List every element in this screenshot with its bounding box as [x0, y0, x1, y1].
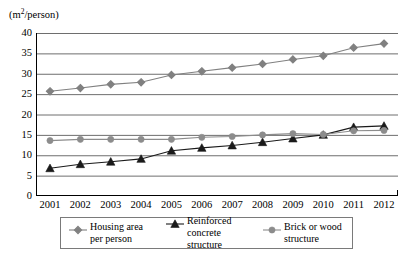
- y-tick-label: 30: [2, 69, 32, 80]
- y-axis-tick-labels: 4035302520151050: [0, 33, 32, 196]
- circle-marker-icon: [381, 127, 387, 133]
- diamond-marker-icon: [320, 52, 327, 59]
- legend-item: Housing area per person: [61, 221, 158, 245]
- circle-marker-icon: [108, 136, 114, 142]
- circle-marker-icon: [263, 222, 281, 234]
- circle-marker-icon: [320, 131, 326, 137]
- diamond-marker-icon: [229, 64, 236, 71]
- series-line: [50, 126, 384, 168]
- line-chart: (m2/person) 4035302520151050 20012002200…: [0, 0, 414, 266]
- y-tick-label: 10: [2, 150, 32, 161]
- circle-marker-icon: [77, 136, 83, 142]
- series-2: [46, 122, 388, 172]
- legend-item: Brick or wood structure: [255, 221, 352, 245]
- circle-marker-icon: [138, 136, 144, 142]
- y-tick-label: 0: [2, 191, 32, 202]
- diamond-marker-icon: [46, 88, 53, 95]
- diamond-marker-icon: [137, 79, 144, 86]
- diamond-marker-icon: [350, 44, 357, 51]
- y-tick-label: 15: [2, 130, 32, 141]
- y-axis-unit-label: (m2/person): [9, 9, 59, 21]
- y-tick-label: 35: [2, 48, 32, 59]
- diamond-marker-icon: [69, 222, 87, 234]
- circle-marker-icon: [47, 137, 53, 143]
- legend-items: Housing area per personReinforced concre…: [61, 218, 352, 248]
- diamond-marker-icon: [74, 226, 81, 233]
- circle-marker-icon: [229, 133, 235, 139]
- series-1: [46, 40, 387, 95]
- x-axis-tick-labels: 2001200220032004200520062007200820092010…: [36, 199, 398, 215]
- legend-label: Brick or wood structure: [284, 221, 342, 245]
- legend-label: Reinforced concrete structure: [187, 215, 255, 251]
- circle-marker-icon: [168, 136, 174, 142]
- diamond-marker-icon: [168, 71, 175, 78]
- diamond-marker-icon: [77, 84, 84, 91]
- legend-item: Reinforced concrete structure: [158, 215, 255, 251]
- plot-svg: [36, 33, 398, 196]
- diamond-marker-icon: [259, 60, 266, 67]
- y-tick-label: 5: [2, 171, 32, 182]
- y-tick-label: 20: [2, 110, 32, 121]
- y-tick-label: 40: [2, 28, 32, 39]
- diamond-marker-icon: [289, 56, 296, 63]
- circle-marker-icon: [199, 134, 205, 140]
- diamond-marker-icon: [107, 81, 114, 88]
- diamond-marker-icon: [380, 40, 387, 47]
- circle-marker-icon: [269, 227, 275, 233]
- legend-label: Housing area per person: [90, 221, 143, 245]
- circle-marker-icon: [259, 132, 265, 138]
- circle-marker-icon: [351, 128, 357, 134]
- series-line: [50, 44, 384, 92]
- circle-marker-icon: [290, 131, 296, 137]
- plot-area: [36, 33, 398, 196]
- chart-legend: Housing area per personReinforced concre…: [60, 217, 353, 249]
- x-tick-label: 2012: [364, 199, 404, 211]
- y-tick-label: 25: [2, 89, 32, 100]
- triangle-marker-icon: [166, 216, 184, 228]
